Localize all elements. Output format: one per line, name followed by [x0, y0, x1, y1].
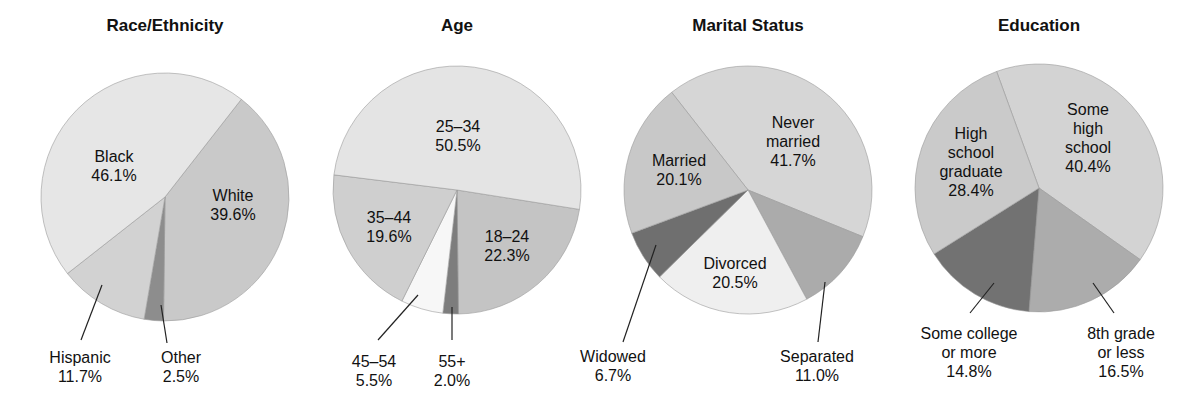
slice-label-married: Married20.1%	[652, 151, 706, 189]
slice-value: 2.0%	[434, 371, 470, 390]
slice-name: Separated	[780, 347, 854, 366]
slice-value: 20.1%	[652, 170, 706, 189]
slice-value: 11.7%	[49, 367, 110, 386]
slice-label-some-high-school: Somehighschool40.4%	[1065, 100, 1111, 176]
slice-value: 22.3%	[484, 246, 529, 265]
slice-name: 55+	[434, 352, 470, 371]
slice-name: school	[939, 143, 1002, 162]
slice-name: White	[210, 186, 255, 205]
slice-name: High	[939, 124, 1002, 143]
pie-age	[333, 66, 581, 314]
slice-label-black: Black46.1%	[91, 147, 136, 185]
slice-name: Some college	[921, 324, 1018, 343]
slice-value: 46.1%	[91, 166, 136, 185]
slice-value: 19.6%	[366, 227, 411, 246]
slice-label-separated: Separated11.0%	[780, 347, 854, 385]
slice-label-never-married: Nevermarried41.7%	[766, 113, 820, 170]
slice-name: Hispanic	[49, 348, 110, 367]
slice-value: 16.5%	[1087, 362, 1155, 381]
slice-name: 25–34	[435, 117, 480, 136]
slice-label-18-24: 18–2422.3%	[484, 227, 529, 265]
slice-value: 2.5%	[161, 367, 201, 386]
slice-name: or less	[1087, 343, 1155, 362]
slice-label-hispanic: Hispanic11.7%	[49, 348, 110, 386]
slice-label-45-54: 45–545.5%	[352, 352, 397, 390]
leader-line-widowed	[623, 245, 656, 342]
slice-name: or more	[921, 343, 1018, 362]
slice-value: 11.0%	[780, 366, 854, 385]
slice-name: Divorced	[703, 254, 766, 273]
slice-label-divorced: Divorced20.5%	[703, 254, 766, 292]
slice-name: Black	[91, 147, 136, 166]
slice-value: 5.5%	[352, 371, 397, 390]
slice-name: Never	[766, 113, 820, 132]
slice-value: 6.7%	[580, 366, 646, 385]
chart-title-race-ethnicity: Race/Ethnicity	[15, 16, 315, 36]
slice-name: Widowed	[580, 347, 646, 366]
chart-title-education: Education	[889, 16, 1189, 36]
slice-name: high	[1065, 119, 1111, 138]
slice-name: 45–54	[352, 352, 397, 371]
slice-name: graduate	[939, 162, 1002, 181]
chart-title-marital-status: Marital Status	[598, 16, 898, 36]
slice-label-white: White39.6%	[210, 186, 255, 224]
chart-title-age: Age	[307, 16, 607, 36]
slice-label-25-34: 25–3450.5%	[435, 117, 480, 155]
leader-line-45-54	[378, 295, 418, 340]
slice-value: 41.7%	[766, 151, 820, 170]
slice-label-8th-grade-or-less: 8th gradeor less16.5%	[1087, 324, 1155, 381]
slice-name: 8th grade	[1087, 324, 1155, 343]
slice-value: 40.4%	[1065, 157, 1111, 176]
slice-value: 20.5%	[703, 273, 766, 292]
slice-label-some-college-or-more: Some collegeor more14.8%	[921, 324, 1018, 381]
slice-value: 28.4%	[939, 181, 1002, 200]
slice-name: 35–44	[366, 208, 411, 227]
slice-label-other: Other2.5%	[161, 348, 201, 386]
slice-name: Some	[1065, 100, 1111, 119]
slice-value: 39.6%	[210, 205, 255, 224]
slice-label-widowed: Widowed6.7%	[580, 347, 646, 385]
slice-value: 14.8%	[921, 362, 1018, 381]
slice-name: Other	[161, 348, 201, 367]
slice-name: school	[1065, 138, 1111, 157]
slice-name: Married	[652, 151, 706, 170]
slice-label-high-school-graduate: Highschoolgraduate28.4%	[939, 124, 1002, 200]
slice-label-35-44: 35–4419.6%	[366, 208, 411, 246]
slice-label-55: 55+2.0%	[434, 352, 470, 390]
slice-name: 18–24	[484, 227, 529, 246]
slice-value: 50.5%	[435, 136, 480, 155]
slice-name: married	[766, 132, 820, 151]
